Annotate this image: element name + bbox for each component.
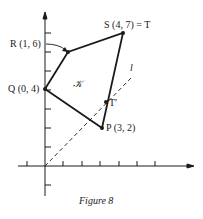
- r-pointer: [46, 44, 66, 50]
- point-r: [66, 50, 70, 54]
- region-k-boundary: [45, 33, 123, 128]
- x-axis-arrow-icon: [187, 164, 194, 168]
- label-p: P (3, 2): [106, 122, 135, 134]
- label-s: S (4, 7) = T: [104, 19, 150, 31]
- label-q: Q (0, 4): [8, 83, 39, 95]
- y-axis-arrow-icon: [43, 12, 47, 19]
- label-r: R (1, 6): [10, 38, 41, 50]
- y-ticks: [45, 33, 51, 185]
- point-q: [43, 87, 47, 91]
- label-line-l: l: [130, 62, 133, 73]
- figure-canvas: S (4, 7) = T R (1, 6) Q (0, 4) P (3, 2) …: [0, 0, 203, 219]
- point-p: [100, 126, 104, 130]
- point-t-prime: [104, 100, 108, 104]
- label-region-k: 𝒦: [73, 78, 86, 89]
- point-s: [121, 31, 125, 35]
- figure-caption: Figure 8: [78, 195, 113, 206]
- label-t-prime: T′: [109, 97, 117, 108]
